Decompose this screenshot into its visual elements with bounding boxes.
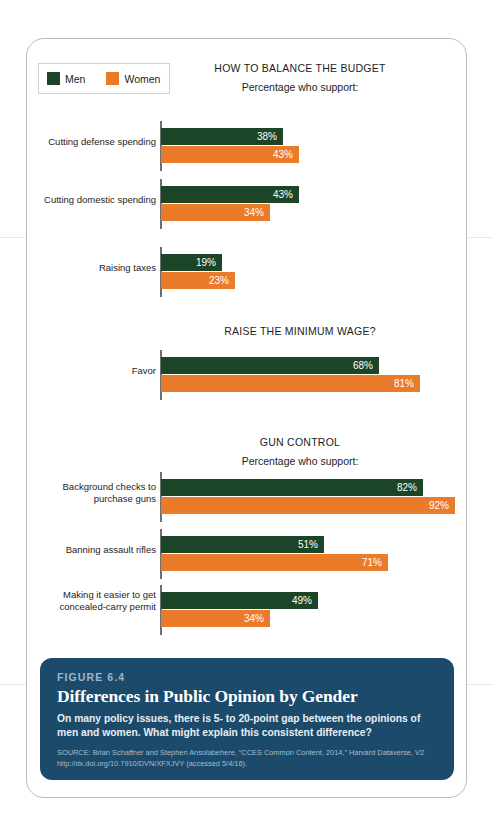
bar-men: 38%	[161, 128, 283, 145]
bar-group-label: Favor	[26, 365, 156, 377]
bar-group-cutting-defense-spending: Cutting defense spending 38% 43%	[0, 128, 493, 168]
legend-label-women: Women	[124, 73, 160, 85]
figure-caption-box: FIGURE 6.4 Differences in Public Opinion…	[40, 658, 454, 780]
figure-description: On many policy issues, there is 5- to 20…	[57, 712, 437, 740]
bar-women: 92%	[161, 497, 455, 514]
bar-value-men: 38%	[257, 131, 283, 142]
bar-value-men: 49%	[292, 595, 318, 606]
bar-men: 49%	[161, 592, 318, 609]
bar-group-label: Raising taxes	[26, 262, 156, 274]
bar-women: 34%	[161, 610, 270, 627]
bar-value-women: 81%	[394, 378, 420, 389]
bar-value-women: 23%	[209, 275, 235, 286]
bar-women: 81%	[161, 375, 420, 392]
bar-value-women: 92%	[429, 500, 455, 511]
bar-group-favor: Favor 68% 81%	[0, 357, 493, 397]
bar-value-women: 43%	[273, 149, 299, 160]
bar-women: 23%	[161, 272, 235, 289]
section-header-minimum-wage: RAISE THE MINIMUM WAGE?	[224, 325, 376, 337]
bar-men: 43%	[161, 186, 299, 203]
bar-group-concealed-carry: Making it easier to get concealed-carry …	[0, 592, 493, 632]
bar-women: 43%	[161, 146, 299, 163]
section-header-budget: HOW TO BALANCE THE BUDGET	[214, 62, 385, 74]
legend-item-women: Women	[106, 72, 160, 85]
chart-legend: Men Women	[38, 63, 170, 94]
figure-number: FIGURE 6.4	[57, 671, 437, 683]
bar-group-cutting-domestic-spending: Cutting domestic spending 43% 34%	[0, 186, 493, 226]
bar-value-women: 34%	[244, 207, 270, 218]
legend-item-men: Men	[47, 72, 85, 85]
bar-women: 71%	[161, 554, 388, 571]
bar-group-banning-assault-rifles: Banning assault rifles 51% 71%	[0, 536, 493, 576]
bar-men: 82%	[161, 479, 423, 496]
bar-group-label: Making it easier to get concealed-carry …	[26, 589, 156, 612]
bar-group-label: Background checks to purchase guns	[26, 481, 156, 504]
legend-label-men: Men	[65, 73, 85, 85]
bar-women: 34%	[161, 204, 270, 221]
bar-men: 68%	[161, 357, 379, 374]
bar-group-label: Cutting defense spending	[26, 136, 156, 148]
section-header-gun-control: GUN CONTROL	[260, 436, 340, 448]
bar-men: 51%	[161, 536, 324, 553]
section-sub-gun-control: Percentage who support:	[242, 455, 359, 467]
bar-value-men: 68%	[353, 360, 379, 371]
bar-value-men: 43%	[273, 189, 299, 200]
bar-value-women: 71%	[362, 557, 388, 568]
bar-group-raising-taxes: Raising taxes 19% 23%	[0, 254, 493, 294]
bar-men: 19%	[161, 254, 222, 271]
legend-swatch-women	[106, 72, 119, 85]
section-sub-budget: Percentage who support:	[242, 81, 359, 93]
bar-value-men: 19%	[196, 257, 222, 268]
figure-title: Differences in Public Opinion by Gender	[57, 686, 437, 707]
figure-source: SOURCE: Brian Schaffner and Stephen Anso…	[57, 748, 437, 769]
bar-value-men: 82%	[397, 482, 423, 493]
bar-value-women: 34%	[244, 613, 270, 624]
bar-value-men: 51%	[298, 539, 324, 550]
bar-group-label: Banning assault rifles	[26, 544, 156, 556]
bar-group-label: Cutting domestic spending	[26, 194, 156, 206]
legend-swatch-men	[47, 72, 60, 85]
bar-group-background-checks: Background checks to purchase guns 82% 9…	[0, 479, 493, 519]
